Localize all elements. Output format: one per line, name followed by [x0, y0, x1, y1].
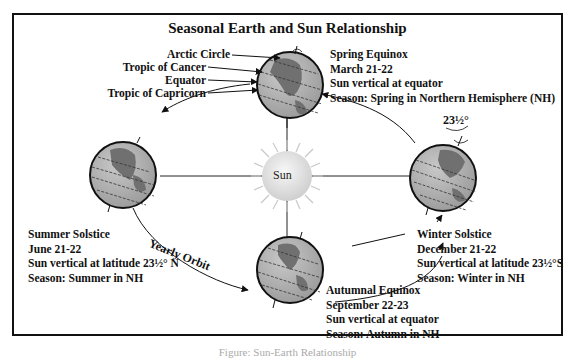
autumn-season: Season: Autumn in NH	[326, 327, 439, 342]
sun-label: Sun	[273, 168, 292, 183]
autumn-date: September 22-23	[326, 298, 439, 313]
winter-sun: Sun vertical at latitude 23½°S	[417, 256, 563, 271]
earth-autumn-icon	[257, 232, 323, 308]
winter-date: December 21-22	[417, 242, 563, 257]
summer-sun: Sun vertical at latitude 23½° N	[28, 256, 179, 271]
autumn-sun: Sun vertical at equator	[326, 312, 439, 327]
spring-date: March 21-22	[330, 62, 555, 77]
autumn-name: Autumnal Equinox	[326, 283, 439, 298]
spring-sun: Sun vertical at equator	[330, 76, 555, 91]
summer-solstice-info: Summer Solstice June 21-22 Sun vertical …	[28, 227, 179, 285]
earth-spring-icon	[257, 46, 323, 128]
spring-equinox-info: Spring Equinox March 21-22 Sun vertical …	[330, 47, 555, 105]
winter-name: Winter Solstice	[417, 227, 563, 242]
figure-caption: Figure: Sun-Earth Relationship	[0, 346, 575, 358]
autumnal-equinox-info: Autumnal Equinox September 22-23 Sun ver…	[326, 283, 439, 341]
winter-solstice-info: Winter Solstice December 21-22 Sun verti…	[417, 227, 563, 285]
label-tropic-capricorn: Tropic of Capricorn	[46, 86, 206, 101]
spring-season: Season: Spring in Northern Hemisphere (N…	[330, 91, 555, 106]
earth-winter-icon	[410, 126, 476, 215]
summer-season: Season: Summer in NH	[28, 271, 179, 286]
tilt-angle-label: 23½°	[443, 113, 469, 128]
spring-name: Spring Equinox	[330, 47, 555, 62]
earth-summer-icon	[90, 137, 156, 212]
